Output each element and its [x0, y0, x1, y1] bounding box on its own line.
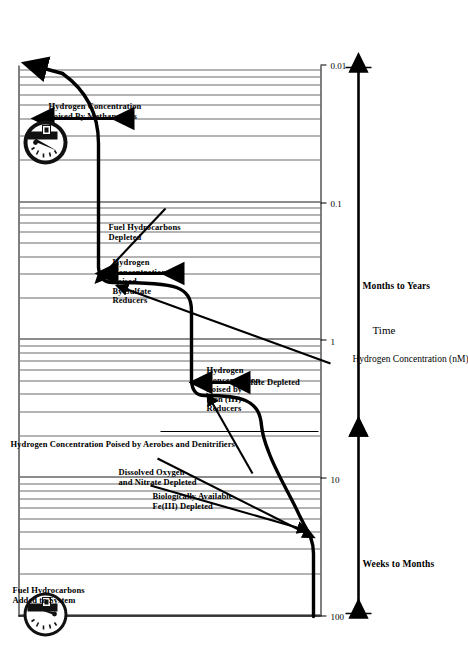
y-axis-tick-label: 0.1 [330, 198, 341, 208]
grid-line-minor [19, 518, 320, 519]
grid-line-minor [19, 435, 320, 436]
grid-line-minor [19, 573, 320, 574]
annotation-sulfate-depleted: Sulfate Depleted [238, 377, 299, 387]
grid-line-minor [19, 273, 320, 274]
grid-line-minor [19, 242, 320, 243]
annotation-poised-sulfate: Hydrogen Concentration Poised By Sulfate… [112, 257, 166, 305]
y-axis-tick-label: 0.01 [330, 61, 346, 71]
y-axis-tick-label: 10 [330, 474, 339, 484]
annotation-poised-iron: Hydrogen Concentration Poised by Iron (I… [206, 365, 260, 413]
grid-line-minor [19, 214, 320, 215]
x-axis-title: Time [372, 323, 395, 335]
grid-line-major [19, 338, 320, 339]
grid-line-minor [19, 84, 320, 85]
grid-line-minor [19, 94, 320, 95]
grid-line-minor [19, 360, 320, 361]
grid-line-minor [19, 345, 320, 346]
grid-line-minor [19, 207, 320, 208]
grid-line-minor [19, 76, 320, 77]
y-axis-title: Hydrogen Concentration (nM) [352, 353, 468, 363]
grid-line-minor [19, 548, 320, 549]
annotation-fuel-depleted: Fuel Hydrocarbons Depleted [108, 222, 180, 241]
grid-line-minor [19, 256, 320, 257]
y-axis-tick-label: 100 [330, 612, 344, 622]
annotation-fuel-added: Fuel Hydrocarbons Added to System [12, 585, 84, 604]
y-axis-tick [320, 64, 326, 65]
y-axis-tick [320, 477, 326, 478]
grid-line-minor [19, 69, 320, 70]
grid-line-minor [19, 297, 320, 298]
annotation-poised-methanogens: Hydrogen Concentration Poised By Methano… [48, 101, 141, 120]
y-axis-tick [320, 340, 326, 341]
grid-line-minor [19, 369, 320, 370]
label-weeks-to-months: Weeks to Months [362, 559, 434, 569]
y-axis-tick [320, 202, 326, 203]
grid-line-minor [19, 411, 320, 412]
fuel-gauge-empty-icon [22, 119, 68, 165]
annotation-oxygen-nitrate: Dissolved Oxygen and Nitrate Depleted [118, 467, 196, 486]
y-axis-tick-label: 1 [330, 336, 335, 346]
y-axis-tick [320, 615, 326, 616]
grid-line-major [19, 201, 320, 202]
label-months-to-years: Months to Years [362, 281, 430, 291]
grid-line-minor [19, 531, 320, 532]
grid-line-minor [19, 352, 320, 353]
annotation-poised-aerobes: Hydrogen Concentration Poised by Aerobes… [10, 439, 235, 449]
grid-line-minor [19, 393, 320, 394]
annotation-iron-depleted: Biologically Available Fe(III) Depleted [152, 491, 232, 510]
